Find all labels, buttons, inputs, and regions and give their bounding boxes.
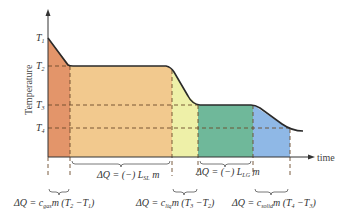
heating-curve-diagram: time Temperature T1 T2 T3 T4 ΔQ = (−) LS…	[0, 0, 350, 219]
region-condensation	[70, 66, 172, 157]
brace-gas	[49, 189, 69, 195]
equation-liquid: ΔQ = cliqm (T3 −T2)	[135, 197, 215, 209]
y-axis-label: Temperature	[23, 64, 34, 115]
equation-freezing: ΔQ = (−) LLG m	[195, 166, 260, 178]
equation-solid: ΔQ = csolidm (T4 −T3)	[231, 197, 316, 209]
brace-solid	[255, 189, 288, 195]
t3-label: T3	[36, 99, 45, 111]
brace-liquid	[173, 189, 197, 195]
t2-label: T2	[36, 60, 45, 72]
x-axis-arrow-icon	[308, 155, 315, 160]
region-freezing	[198, 105, 253, 157]
t1-label: T1	[36, 32, 45, 44]
region-liquid	[172, 70, 198, 157]
x-axis-label: time	[317, 152, 335, 163]
brace-condensation	[72, 161, 170, 167]
equation-gas: ΔQ = cgasm (T2 −T1)	[13, 197, 95, 209]
equation-condensation: ΔQ = (−) LSL m	[96, 169, 159, 181]
y-axis-arrow-icon	[46, 9, 51, 16]
region-gas	[48, 38, 70, 157]
region-solid	[253, 105, 290, 157]
t4-label: T4	[36, 122, 45, 134]
